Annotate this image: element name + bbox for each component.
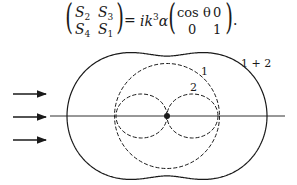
label-1-plus-2: 1 + 2 <box>241 57 271 70</box>
scattering-pattern-diagram: 1 + 2 1 2 <box>0 0 297 185</box>
scatterer-dot <box>164 113 170 119</box>
incident-arrows <box>13 94 46 140</box>
label-1: 1 <box>201 65 208 78</box>
label-2: 2 <box>190 81 197 94</box>
